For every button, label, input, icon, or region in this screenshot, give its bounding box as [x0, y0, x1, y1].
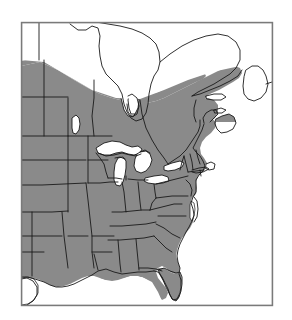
range-map-figure — [0, 0, 292, 320]
range-map-svg — [0, 0, 292, 320]
